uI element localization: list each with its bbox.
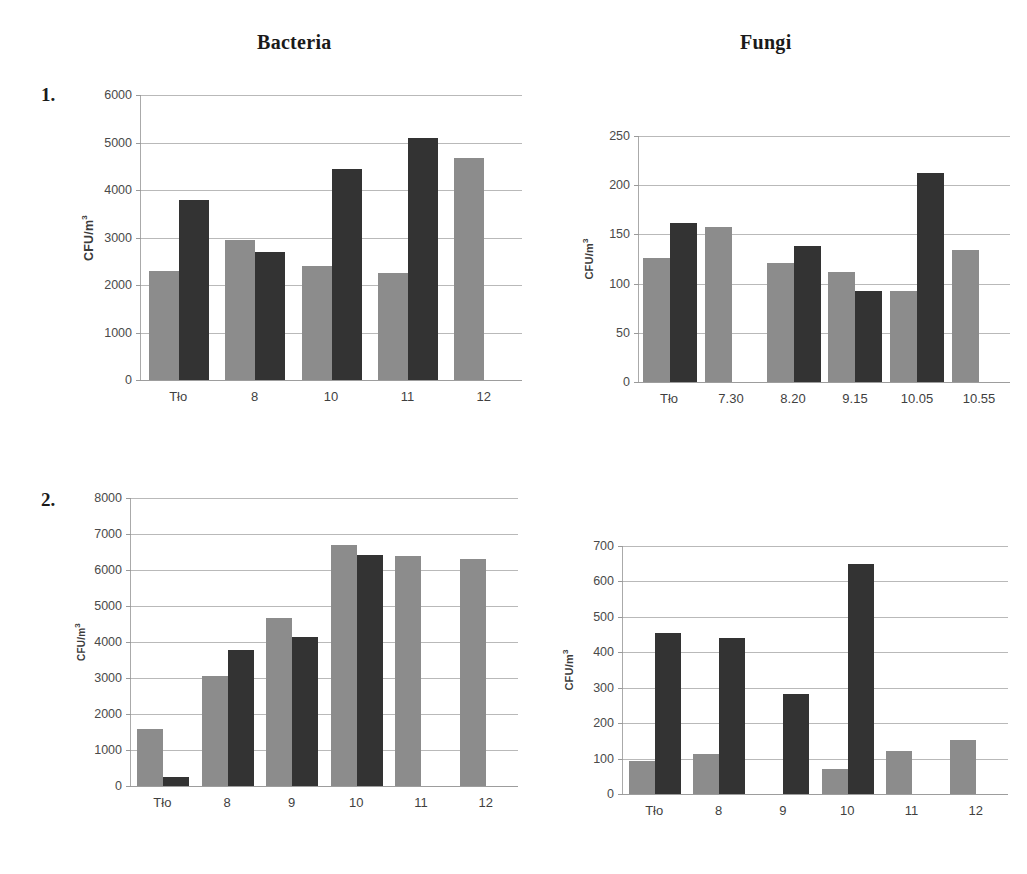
- x-tick-label: 9.15: [824, 391, 886, 406]
- bar-series_2: [794, 246, 821, 382]
- gridline: [131, 786, 518, 787]
- y-tick-label: 5000: [104, 136, 132, 150]
- x-tick-label: 7.30: [700, 391, 762, 406]
- bar-group: [824, 136, 886, 382]
- y-tick-label: 0: [115, 779, 122, 793]
- y-tick-mark: [126, 786, 131, 787]
- y-tick-label: 6000: [104, 88, 132, 102]
- y-axis-tick-labels: 0100020003000400050006000: [88, 86, 132, 416]
- bar-series_2: [783, 694, 809, 794]
- y-tick-label: 500: [593, 610, 614, 624]
- y-tick-label: 50: [616, 326, 630, 340]
- x-tick-label: 12: [944, 803, 1008, 818]
- bar-series_2: [163, 777, 189, 786]
- y-tick-label: 1000: [94, 743, 122, 757]
- y-tick-label: 3000: [94, 671, 122, 685]
- bar-chart-fungi-1: CFU/m3050100150200250Tło7.308.209.1510.0…: [588, 128, 1018, 416]
- y-tick-label: 0: [125, 373, 132, 387]
- bar-group: [701, 136, 763, 382]
- bar-group: [446, 95, 522, 380]
- bar-group: [639, 136, 701, 382]
- x-tick-label: 12: [446, 389, 522, 404]
- bar-series_1: [705, 227, 732, 382]
- bar-group: [948, 136, 1010, 382]
- y-tick-label: 200: [593, 716, 614, 730]
- bar-group: [260, 498, 325, 786]
- bar-chart-bacteria-1: CFU/m30100020003000400050006000Tło810111…: [88, 86, 528, 416]
- bar-series_1: [302, 266, 332, 380]
- y-tick-mark: [618, 794, 623, 795]
- bar-group: [687, 546, 751, 794]
- x-axis-tick-labels: Tło8101112: [140, 389, 522, 404]
- bar-series-container: [639, 136, 1010, 382]
- bar-group: [763, 136, 825, 382]
- bar-series_1: [822, 769, 848, 794]
- y-tick-label: 1000: [104, 326, 132, 340]
- bar-series_1: [395, 556, 421, 786]
- y-tick-label: 200: [609, 178, 630, 192]
- x-tick-label: 10.55: [948, 391, 1010, 406]
- gridline: [141, 380, 522, 381]
- column-title-bacteria: Bacteria: [257, 31, 332, 54]
- y-tick-label: 3000: [104, 231, 132, 245]
- bar-series_1: [890, 291, 917, 383]
- x-axis-tick-labels: Tło89101112: [622, 803, 1008, 818]
- row-label-1: 1.: [41, 84, 55, 106]
- bar-group: [389, 498, 454, 786]
- bar-series-container: [623, 546, 1008, 794]
- y-tick-label: 150: [609, 227, 630, 241]
- x-tick-label: 8: [195, 795, 260, 810]
- bar-series_1: [952, 250, 979, 382]
- y-axis-tick-labels: 050100150200250: [588, 128, 630, 416]
- y-tick-mark: [136, 380, 141, 381]
- bar-series_2: [408, 138, 438, 380]
- y-tick-label: 7000: [94, 527, 122, 541]
- bar-group: [141, 95, 217, 380]
- bar-group: [370, 95, 446, 380]
- bar-series_1: [225, 240, 255, 380]
- bar-series_2: [255, 252, 285, 380]
- bar-series_2: [228, 650, 254, 786]
- bar-series_1: [886, 751, 912, 794]
- bar-chart-fungi-2: CFU/m30100200300400500600700Tło89101112: [568, 538, 1018, 830]
- bar-series_1: [202, 676, 228, 786]
- plot-area: [622, 546, 1008, 794]
- bar-series_1: [331, 545, 357, 786]
- bar-group: [751, 546, 815, 794]
- y-axis-tick-labels: 010002000300040005000600070008000: [80, 490, 122, 822]
- bar-series_1: [643, 258, 670, 382]
- bar-series_1: [629, 761, 655, 794]
- column-title-fungi: Fungi: [740, 31, 792, 54]
- y-tick-label: 600: [593, 574, 614, 588]
- y-tick-mark: [634, 382, 639, 383]
- x-tick-label: Tło: [140, 389, 216, 404]
- y-tick-label: 300: [593, 681, 614, 695]
- x-tick-label: 8: [216, 389, 292, 404]
- bar-series_2: [332, 169, 362, 380]
- y-tick-label: 4000: [104, 183, 132, 197]
- x-axis-tick-labels: Tło7.308.209.1510.0510.55: [638, 391, 1010, 406]
- bar-series_2: [357, 555, 383, 786]
- gridline: [639, 382, 1010, 383]
- x-tick-label: 12: [453, 795, 518, 810]
- bar-group: [454, 498, 519, 786]
- bar-series_1: [137, 729, 163, 786]
- x-tick-label: 10: [324, 795, 389, 810]
- bar-series_2: [292, 637, 318, 786]
- bar-group: [217, 95, 293, 380]
- x-tick-label: 11: [369, 389, 445, 404]
- bar-group: [196, 498, 261, 786]
- y-tick-label: 8000: [94, 491, 122, 505]
- y-tick-label: 4000: [94, 635, 122, 649]
- x-tick-label: 8.20: [762, 391, 824, 406]
- bar-series_2: [917, 173, 944, 382]
- y-tick-label: 2000: [104, 278, 132, 292]
- x-tick-label: 11: [879, 803, 943, 818]
- bar-group: [944, 546, 1008, 794]
- bar-series_2: [848, 564, 874, 794]
- x-tick-label: 11: [389, 795, 454, 810]
- y-tick-label: 250: [609, 129, 630, 143]
- gridline: [623, 794, 1008, 795]
- y-tick-label: 5000: [94, 599, 122, 613]
- bar-series_1: [460, 559, 486, 786]
